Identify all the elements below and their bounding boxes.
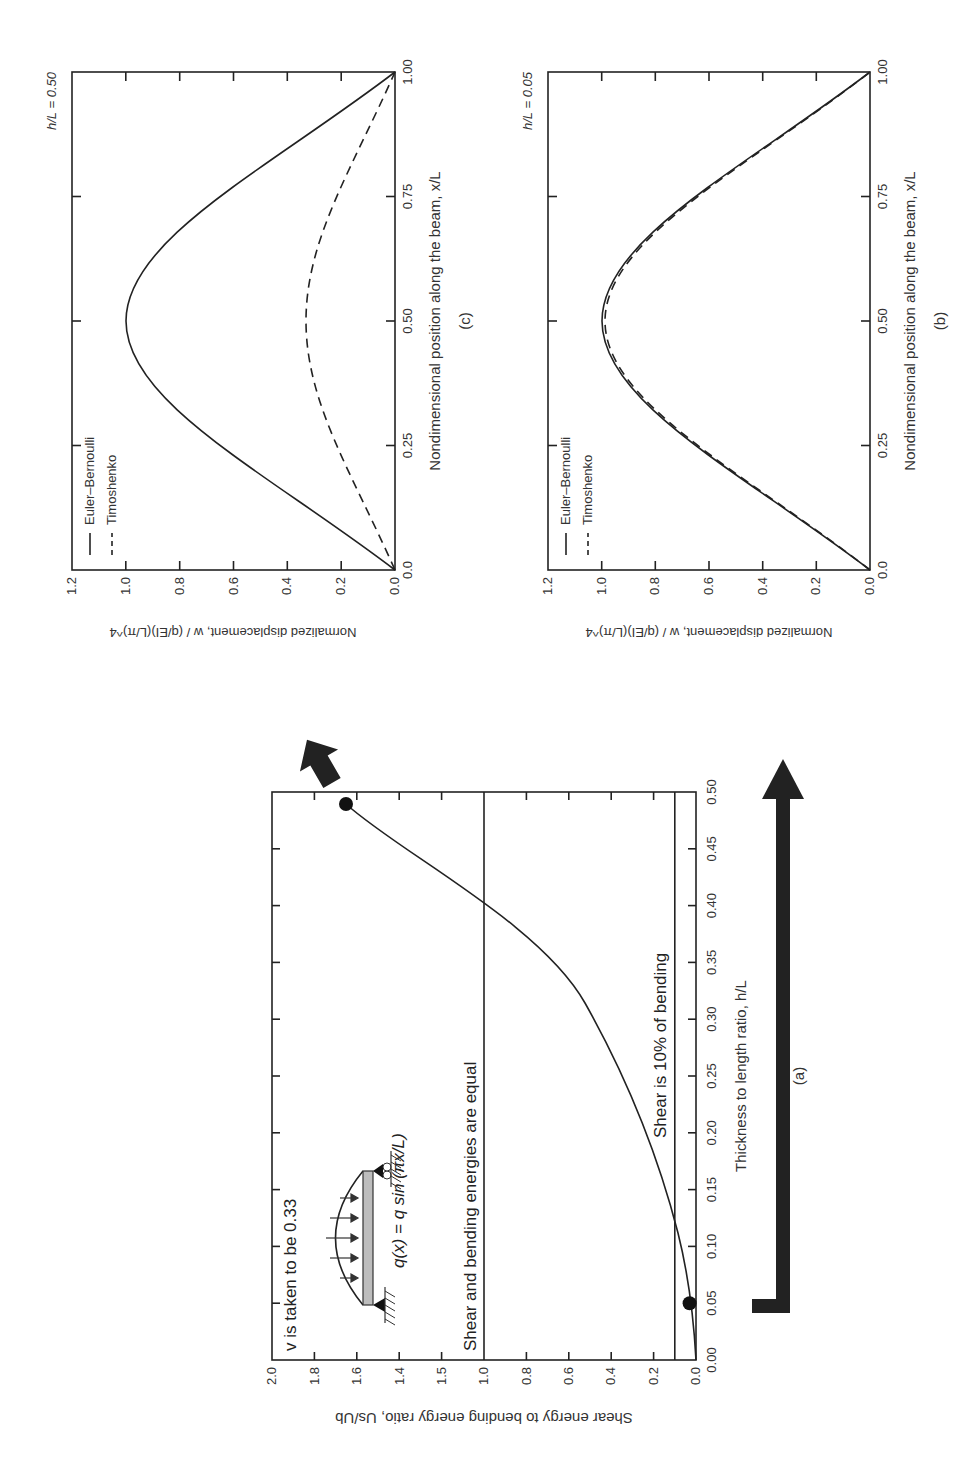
panel-b-ylabel: Normalized displacement, w / (q/EI)(L/π)… — [586, 625, 833, 640]
roller-support-icon — [373, 1164, 383, 1178]
beam — [363, 1171, 373, 1305]
ytick-label: 0.0 — [387, 577, 402, 595]
legend-label: Euler–Bernoulli — [558, 437, 573, 525]
xtick-label: 0.50 — [400, 308, 415, 333]
poisson-annotation: v is taken to be 0.33 — [281, 1199, 300, 1351]
load-annotation: q(x) = q sin (πx/L) — [389, 1133, 408, 1268]
ytick-label: 1.2 — [64, 577, 79, 595]
timoshenko-curve — [306, 72, 395, 570]
ytick-label: 0.6 — [561, 1367, 576, 1385]
figure-canvas: 0.00 0.05 0.10 0.15 0.20 0.25 0.30 0.35 … — [0, 0, 967, 1463]
panel-c-xticks — [72, 197, 395, 446]
ytick-label: 1.2 — [540, 577, 555, 595]
xtick-label: 0.25 — [704, 1063, 719, 1088]
xtick-label: 0.0 — [875, 561, 890, 579]
ten-percent-annotation: Shear is 10% of bending — [651, 953, 670, 1138]
ytick-label: 1.0 — [476, 1367, 491, 1385]
ytick-label: 0.0 — [862, 577, 877, 595]
xtick-label: 0.05 — [704, 1291, 719, 1316]
legend-label: Timoshenko — [104, 455, 119, 525]
panel-c-frame — [72, 72, 395, 570]
equal-energy-annotation: Shear and bending energies are equal — [461, 1062, 480, 1351]
trend-arrow-icon — [288, 729, 351, 794]
panel-b-ytick-labels: 0.0 0.2 0.4 0.6 0.8 1.0 1.2 — [540, 577, 877, 595]
ytick-label: 0.2 — [808, 577, 823, 595]
ytick-label: 1.5 — [434, 1367, 449, 1385]
xtick-label: 0.50 — [875, 308, 890, 333]
ytick-label: 0.8 — [519, 1367, 534, 1385]
ytick-label: 0.2 — [646, 1367, 661, 1385]
panel-c: Euler–Bernoulli Timoshenko 0.0 0.25 0.50… — [44, 59, 473, 640]
ytick-label: 0.8 — [647, 577, 662, 595]
marker-h005 — [683, 1296, 697, 1310]
panel-c-label: (c) — [456, 312, 473, 330]
ytick-label: 0.4 — [603, 1367, 618, 1385]
panel-b-xlabel: Nondimensional position along the beam, … — [901, 171, 918, 470]
panel-c-ylabel: Normalized displacement, w / (q/EI)(L/π)… — [110, 625, 357, 640]
legend-label: Euler–Bernoulli — [82, 437, 97, 525]
xtick-label: 0.75 — [400, 184, 415, 209]
panel-c-xtick-labels: 0.0 0.25 0.50 0.75 1.00 — [400, 59, 415, 579]
ytick-label: 0.6 — [226, 577, 241, 595]
panel-b-label: (b) — [931, 312, 948, 330]
xtick-label: 0.10 — [704, 1234, 719, 1259]
energy-ratio-curve — [346, 804, 696, 1360]
panel-b-frame — [548, 72, 870, 570]
ytick-label: 0.8 — [172, 577, 187, 595]
ytick-label: 0.2 — [333, 577, 348, 595]
panel-b-legend: Euler–Bernoulli Timoshenko — [558, 437, 595, 555]
ytick-label: 1.0 — [118, 577, 133, 595]
xtick-label: 0.25 — [875, 433, 890, 458]
panel-b-case: h/L = 0.05 — [520, 71, 535, 130]
ytick-label: 1.0 — [594, 577, 609, 595]
panel-b-xtick-labels: 0.0 0.25 0.50 0.75 1.00 — [875, 59, 890, 579]
xtick-label: 1.00 — [400, 59, 415, 84]
panel-c-ytick-labels: 0.0 0.2 0.4 0.6 0.8 1.0 1.2 — [64, 577, 402, 595]
panel-a-xtick-labels: 0.00 0.05 0.10 0.15 0.20 0.25 0.30 0.35 … — [704, 779, 719, 1372]
panel-b: Euler–Bernoulli Timoshenko 0.0 0.25 0.50… — [520, 59, 948, 640]
xtick-label: 0.20 — [704, 1120, 719, 1145]
xtick-label: 0.45 — [704, 836, 719, 861]
xtick-label: 0.50 — [704, 779, 719, 804]
panel-c-yticks — [126, 72, 341, 570]
ground-hatch-left — [385, 1291, 395, 1325]
xtick-label: 0.25 — [400, 433, 415, 458]
panel-a-label: (a) — [790, 1067, 807, 1085]
xtick-label: 1.00 — [875, 59, 890, 84]
panel-c-case: h/L = 0.50 — [44, 71, 59, 130]
timoshenko-curve — [605, 72, 870, 570]
panel-a: 0.00 0.05 0.10 0.15 0.20 0.25 0.30 0.35 … — [264, 729, 807, 1427]
ytick-label: 1.6 — [349, 1367, 364, 1385]
ytick-label: 2.0 — [264, 1367, 279, 1385]
xtick-label: 0.15 — [704, 1177, 719, 1202]
xtick-label: 0.40 — [704, 893, 719, 918]
ytick-label: 0.4 — [755, 577, 770, 595]
ytick-label: 1.4 — [392, 1367, 407, 1385]
ytick-label: 1.8 — [307, 1367, 322, 1385]
increasing-thickness-arrow — [752, 759, 804, 1313]
marker-h050 — [339, 797, 353, 811]
panel-a-xlabel: Thickness to length ratio, h/L — [732, 980, 749, 1172]
xtick-label: 0.0 — [400, 561, 415, 579]
xtick-label: 0.75 — [875, 184, 890, 209]
rotated-figure-page: 0.00 0.05 0.10 0.15 0.20 0.25 0.30 0.35 … — [0, 0, 967, 1463]
panel-a-ytick-labels: 0.0 0.2 0.4 0.6 0.8 1.0 1.5 1.4 1.6 1.8 … — [264, 1367, 703, 1385]
panel-a-ylabel: Shear energy to bending energy ratio, Us… — [335, 1410, 633, 1427]
ytick-label: 0.6 — [701, 577, 716, 595]
panel-c-xlabel: Nondimensional position along the beam, … — [426, 171, 443, 470]
xtick-label: 0.00 — [704, 1347, 719, 1372]
panel-b-xticks — [548, 197, 870, 446]
panel-b-yticks — [602, 72, 817, 570]
legend-label: Timoshenko — [580, 455, 595, 525]
ytick-label: 0.4 — [279, 577, 294, 595]
xtick-label: 0.30 — [704, 1007, 719, 1032]
euler-bernoulli-curve — [602, 72, 870, 570]
ytick-label: 0.0 — [688, 1367, 703, 1385]
panel-c-legend: Euler–Bernoulli Timoshenko — [82, 437, 119, 555]
xtick-label: 0.35 — [704, 950, 719, 975]
pin-support-icon — [373, 1298, 385, 1312]
euler-bernoulli-curve — [126, 72, 395, 570]
